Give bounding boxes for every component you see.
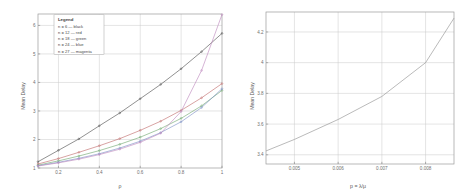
right-x-tick-labels: 0.0050.0060.0070.008 xyxy=(289,166,432,171)
legend-entry: n = 12 — red xyxy=(58,30,83,35)
left-legend: Legendn = 6 — blackn = 12 — redn = 18 — … xyxy=(54,15,104,55)
series-line-n-12 xyxy=(38,84,222,164)
right-y-tick-labels: 3.43.63.844.2 xyxy=(257,30,264,158)
left-chart: 0.20.40.60.81 123456 Legendn = 6 — black… xyxy=(0,0,236,196)
series-line-n-18 xyxy=(38,90,222,165)
series-line-n-24 xyxy=(38,89,222,166)
right-gridlines xyxy=(266,12,454,164)
left-x-axis-title: ρ xyxy=(119,183,122,189)
svg-text:1: 1 xyxy=(33,166,36,171)
svg-text:1: 1 xyxy=(221,170,224,175)
svg-text:3.6: 3.6 xyxy=(257,122,264,127)
svg-text:5: 5 xyxy=(33,52,36,57)
svg-text:0.8: 0.8 xyxy=(178,170,185,175)
svg-text:0.006: 0.006 xyxy=(332,166,344,171)
right-tick-marks xyxy=(266,32,426,164)
figure-panel: 0.20.40.60.81 123456 Legendn = 6 — black… xyxy=(0,0,471,196)
svg-text:4: 4 xyxy=(33,80,36,85)
svg-text:0.005: 0.005 xyxy=(289,166,301,171)
svg-text:0.4: 0.4 xyxy=(96,170,103,175)
svg-text:6: 6 xyxy=(33,23,36,28)
legend-entry: n = 24 — blue xyxy=(58,42,84,47)
svg-text:3: 3 xyxy=(33,109,36,114)
right-chart: 0.0050.0060.0070.008 3.43.63.844.2 p = λ… xyxy=(236,0,471,196)
legend-entry: n = 27 — magenta xyxy=(58,49,93,54)
legend-title: Legend xyxy=(58,17,74,22)
right-y-axis-title: Mean Delay xyxy=(249,82,255,110)
svg-text:2: 2 xyxy=(33,137,36,142)
svg-text:4: 4 xyxy=(261,60,264,65)
svg-text:0.6: 0.6 xyxy=(137,170,144,175)
left-y-axis-title: Mean Delay xyxy=(20,82,26,110)
legend-entry: n = 18 — green xyxy=(58,36,87,41)
right-x-axis-title: p = λ/μ xyxy=(350,183,366,189)
svg-text:0.007: 0.007 xyxy=(376,166,388,171)
left-y-tick-labels: 123456 xyxy=(33,23,36,171)
left-chart-canvas: 0.20.40.60.81 123456 Legendn = 6 — black… xyxy=(0,0,236,196)
svg-text:0.2: 0.2 xyxy=(55,170,62,175)
svg-text:0.008: 0.008 xyxy=(420,166,432,171)
svg-text:3.4: 3.4 xyxy=(257,152,264,157)
right-chart-canvas: 0.0050.0060.0070.008 3.43.63.844.2 p = λ… xyxy=(236,0,471,196)
svg-text:4.2: 4.2 xyxy=(257,30,264,35)
left-x-tick-labels: 0.20.40.60.81 xyxy=(55,170,223,175)
legend-entry: n = 6 — black xyxy=(58,24,84,29)
svg-text:3.8: 3.8 xyxy=(257,91,264,96)
